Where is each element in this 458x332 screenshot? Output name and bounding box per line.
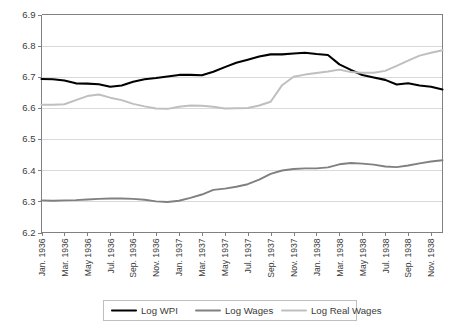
x-axis-tick-label: Jan. 1936 bbox=[37, 238, 47, 276]
x-axis-tick-label: Jul. 1937 bbox=[243, 238, 253, 273]
x-axis-tick-label: Sep. 1936 bbox=[128, 238, 138, 277]
x-axis-tick-label: Jan. 1937 bbox=[174, 238, 184, 276]
x-axis-tick-label: Nov. 1936 bbox=[151, 238, 161, 277]
y-axis-tick-label: 6.4 bbox=[22, 165, 35, 176]
y-axis-tick-label: 6.8 bbox=[22, 40, 35, 51]
x-tickmarks bbox=[43, 233, 432, 237]
y-axis-tick-label: 6.7 bbox=[22, 71, 35, 82]
y-axis-tick-label: 6.5 bbox=[22, 133, 35, 144]
x-axis-tick-label: Nov. 1937 bbox=[289, 238, 299, 277]
x-axis-tick-label: Sep. 1937 bbox=[266, 238, 276, 277]
x-axis-tick-label: Jul. 1938 bbox=[381, 238, 391, 273]
x-axis-tick-label: Jan. 1938 bbox=[312, 238, 322, 276]
x-axis-tick-label: May 1938 bbox=[358, 238, 368, 276]
x-axis-tick-label: Jul. 1936 bbox=[106, 238, 116, 273]
legend-label-2: Log Real Wages bbox=[311, 305, 382, 316]
x-axis-tick-label: Nov. 1938 bbox=[426, 238, 436, 277]
legend-label-1: Log Wages bbox=[225, 305, 273, 316]
x-axis-tick-label: May 1937 bbox=[220, 238, 230, 276]
x-axis-tick-labels: Jan. 1936Mar. 1936May 1936Jul. 1936Sep. … bbox=[37, 238, 437, 277]
x-axis-tick-label: May 1936 bbox=[83, 238, 93, 276]
legend-label-0: Log WPI bbox=[141, 305, 178, 316]
y-axis-tick-label: 6.2 bbox=[22, 227, 35, 238]
chart-canvas: 6.26.36.46.56.66.76.86.9 Jan. 1936Mar. 1… bbox=[0, 0, 458, 332]
x-axis-tick-label: Mar. 1936 bbox=[60, 238, 70, 276]
chart-legend: Log WPILog WagesLog Real Wages bbox=[104, 301, 382, 321]
line-chart-container: 6.26.36.46.56.66.76.86.9 Jan. 1936Mar. 1… bbox=[0, 0, 458, 332]
x-axis-tick-label: Mar. 1937 bbox=[197, 238, 207, 276]
y-axis-tick-label: 6.3 bbox=[22, 196, 35, 207]
y-axis-tick-label: 6.9 bbox=[22, 9, 35, 20]
plot-background bbox=[42, 15, 443, 233]
y-axis-tick-label: 6.6 bbox=[22, 102, 35, 113]
x-axis-tick-label: Mar. 1938 bbox=[335, 238, 345, 276]
y-axis-tick-labels: 6.26.36.46.56.66.76.86.9 bbox=[22, 9, 41, 238]
x-axis-tick-label: Sep. 1938 bbox=[403, 238, 413, 277]
